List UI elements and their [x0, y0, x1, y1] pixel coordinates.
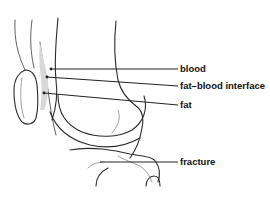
pointer-blood [50, 68, 53, 71]
pointer-fat [43, 92, 46, 95]
quadriceps-tendon-line [15, 20, 25, 70]
tibial-anterior [96, 168, 108, 186]
label-fracture: fracture [180, 156, 215, 167]
intercondylar-line [112, 110, 119, 133]
soft-tissue-line [31, 20, 34, 68]
leader-fat-blood-interface [47, 77, 178, 86]
fibula-line [88, 162, 104, 168]
patella-inner-line [21, 78, 24, 118]
tibial-plateau [70, 148, 159, 182]
label-blood: blood [180, 63, 206, 74]
label-fat-blood-interface: fat–blood interface [180, 80, 265, 91]
femur-posterior-outline [115, 21, 143, 158]
fracture-line-detail [118, 156, 152, 182]
leader-fat [44, 93, 178, 105]
pointer-fat-blood-interface [46, 76, 49, 79]
label-fat: fat [180, 99, 192, 110]
knee-diagram: blood fat–blood interface fat fracture [0, 0, 270, 199]
patella-outline [14, 70, 38, 124]
